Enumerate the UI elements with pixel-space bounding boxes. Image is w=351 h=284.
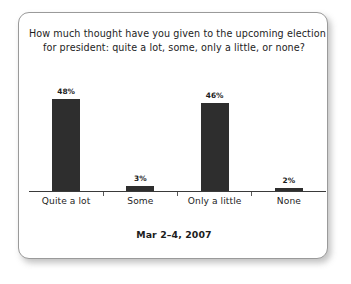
chart-title: How much thought have you given to the u… [29, 27, 319, 55]
x-axis-label-only-a-little: Only a little [178, 196, 252, 206]
x-axis-label-some: Some [103, 196, 177, 206]
poll-result-card: How much thought have you given to the u… [18, 12, 328, 259]
bar-cell-some: 3% [103, 91, 177, 192]
bar-value-only-a-little: 46% [206, 91, 224, 100]
chart-plot-area: 48% 3% 46% 2% [29, 91, 326, 192]
bar-value-quite-a-lot: 48% [57, 87, 75, 96]
chart-title-line-1: How much thought have you given to the u… [29, 27, 319, 41]
bar-cell-none: 2% [252, 91, 326, 192]
bar-series: 48% 3% 46% 2% [29, 91, 326, 192]
bar-cell-only-a-little: 46% [178, 91, 252, 192]
chart-date-footer: Mar 2–4, 2007 [29, 229, 319, 240]
bar-value-none: 2% [283, 176, 296, 185]
x-axis-category-labels: Quite a lot Some Only a little None [29, 196, 326, 206]
bar-value-some: 3% [134, 174, 147, 183]
screenshot-root: How much thought have you given to the u… [0, 0, 351, 284]
bar-cell-quite-a-lot: 48% [29, 91, 103, 192]
bar-quite-a-lot: 48% [52, 99, 80, 192]
x-axis-label-none: None [252, 196, 326, 206]
chart-title-line-2: for president: quite a lot, some, only a… [29, 41, 319, 55]
x-axis-label-quite-a-lot: Quite a lot [29, 196, 103, 206]
bar-only-a-little: 46% [201, 103, 229, 192]
